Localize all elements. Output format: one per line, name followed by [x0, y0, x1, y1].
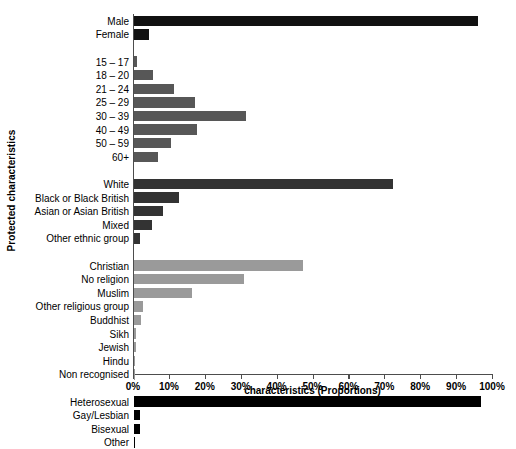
x-axis-tick: [241, 374, 242, 379]
bar-row: 18 – 20: [133, 68, 492, 82]
bar-row-label: 50 – 59: [96, 138, 129, 149]
bar-row: Sikh: [133, 327, 492, 341]
bar-row: Buddhist: [133, 313, 492, 327]
bar-row: Male: [133, 14, 492, 28]
bar-row-label: Other religious group: [36, 301, 129, 312]
bar-row-label: No religion: [81, 274, 129, 285]
bar: [134, 97, 195, 107]
bar-row-label: Buddhist: [90, 314, 129, 325]
x-axis-tick: [420, 374, 421, 379]
bar: [134, 138, 170, 148]
bar-row: White: [133, 177, 492, 191]
bar: [134, 179, 393, 189]
bar-row: Muslim: [133, 286, 492, 300]
bar-row: Bisexual: [133, 422, 492, 436]
bar-row: 60+: [133, 150, 492, 164]
x-axis-tick: [456, 374, 457, 379]
bar: [134, 206, 163, 216]
x-axis-title: characteristics (Proportions): [133, 385, 492, 396]
bar: [134, 29, 149, 39]
bar-row: Other religious group: [133, 300, 492, 314]
bar-row: 15 – 17: [133, 55, 492, 69]
bar-row: Black or Black British: [133, 191, 492, 205]
bar: [134, 410, 139, 420]
bar: [134, 84, 173, 94]
x-axis-tick: [277, 374, 278, 379]
x-axis-tick: [492, 374, 493, 379]
bar-row: Female: [133, 28, 492, 42]
bar: [134, 328, 136, 338]
bar-row: Heterosexual: [133, 395, 492, 409]
bar-row: 40 – 49: [133, 123, 492, 137]
bar-row: Other ethnic group: [133, 232, 492, 246]
x-axis-tick: [313, 374, 314, 379]
bar: [134, 260, 303, 270]
bar-row: Jewish: [133, 340, 492, 354]
bar: [134, 437, 135, 447]
bar: [134, 356, 135, 366]
bar: [134, 124, 197, 134]
bar-row: Asian or Asian British: [133, 204, 492, 218]
bar-row-label: Asian or Asian British: [35, 206, 130, 217]
bar-row-label: Other: [104, 437, 129, 448]
y-axis-title-text: Protected characteristics: [6, 129, 17, 251]
bar-row: Mixed: [133, 218, 492, 232]
bar-row-label: 30 – 39: [96, 110, 129, 121]
bar-row-label: 60+: [112, 151, 129, 162]
bar-row: Gay/Lesbian: [133, 408, 492, 422]
bar: [134, 233, 140, 243]
bar-row-label: Muslim: [97, 287, 129, 298]
bar-row-label: Other ethnic group: [46, 233, 129, 244]
bar-row-label: Heterosexual: [70, 396, 129, 407]
bar-row-label: Female: [96, 29, 129, 40]
bar: [134, 192, 179, 202]
x-axis-tick: [133, 374, 134, 379]
bar: [134, 152, 157, 162]
x-axis-tick: [384, 374, 385, 379]
bar: [134, 111, 246, 121]
bar-row-label: Jewish: [98, 342, 129, 353]
bar: [134, 16, 478, 26]
bar-row-label: 18 – 20: [96, 70, 129, 81]
bar-row: Christian: [133, 259, 492, 273]
bar-row-label: Black or Black British: [35, 192, 129, 203]
bar-row-label: 21 – 24: [96, 83, 129, 94]
bar-row-label: Bisexual: [91, 423, 129, 434]
bar: [134, 396, 480, 406]
bar-row-label: Hindu: [103, 355, 129, 366]
bar: [134, 274, 243, 284]
bar: [134, 70, 152, 80]
bar: [134, 220, 152, 230]
x-axis-tick: [169, 374, 170, 379]
bar: [134, 342, 136, 352]
bar-row: No religion: [133, 272, 492, 286]
bar-row-label: Sikh: [110, 328, 129, 339]
bar-row-label: White: [103, 178, 129, 189]
bar-row: 21 – 24: [133, 82, 492, 96]
bar-row-label: Male: [107, 15, 129, 26]
bar-row-label: Gay/Lesbian: [73, 410, 129, 421]
bar-row: 30 – 39: [133, 109, 492, 123]
x-axis-tick: [205, 374, 206, 379]
bar: [134, 369, 135, 379]
plot-area: MaleFemale15 – 1718 – 2021 – 2425 – 2930…: [133, 14, 492, 374]
bar-row-label: Christian: [90, 260, 129, 271]
bar: [134, 301, 142, 311]
bar-row: Hindu: [133, 354, 492, 368]
y-axis-title: Protected characteristics: [0, 0, 22, 380]
bar-row-label: Mixed: [102, 219, 129, 230]
bar-row: Other: [133, 436, 492, 449]
bar-row-label: 15 – 17: [96, 56, 129, 67]
bar-row-label: 40 – 49: [96, 124, 129, 135]
bar: [134, 315, 141, 325]
bar: [134, 288, 192, 298]
bar-row-label: 25 – 29: [96, 97, 129, 108]
bar: [134, 424, 139, 434]
bar-row-label: Non recognised: [59, 369, 129, 380]
bar-row: 25 – 29: [133, 96, 492, 110]
bar: [134, 56, 136, 66]
bar-row: 50 – 59: [133, 136, 492, 150]
x-axis-tick: [348, 374, 349, 379]
